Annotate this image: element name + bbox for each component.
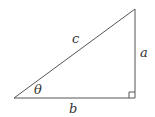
label-hypotenuse: c [72, 31, 80, 46]
label-opposite: a [140, 45, 148, 60]
right-angle-marker [129, 92, 135, 98]
label-angle-theta: θ [34, 82, 42, 97]
label-adjacent: b [69, 101, 77, 116]
right-triangle-diagram: c a θ b [0, 0, 155, 117]
hypotenuse-edge [14, 9, 135, 98]
